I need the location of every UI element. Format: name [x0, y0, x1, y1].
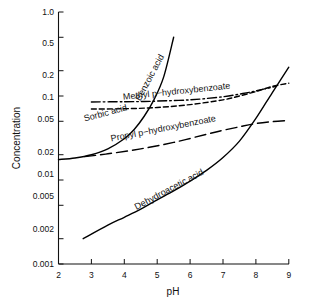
y-tick-label: 0.002 [33, 224, 55, 234]
x-tick-label: 9 [286, 270, 291, 280]
y-tick-label: 0.01 [37, 169, 54, 179]
y-axis-title: Concentration [11, 107, 22, 169]
x-tick-label: 8 [254, 270, 259, 280]
x-tick-label: 4 [122, 270, 127, 280]
y-tick-label: 0.05 [37, 114, 54, 124]
x-tick-label: 5 [155, 270, 160, 280]
concentration-vs-ph-chart: 1.0 0.5 0.2 0.1 0.05 0.02 0.01 0.005 0.0… [0, 0, 309, 302]
y-tick-label: 0.001 [33, 259, 55, 269]
y-tick-label: 0.1 [42, 92, 54, 102]
x-axis-title: pH [167, 286, 180, 297]
x-tick-label: 6 [188, 270, 193, 280]
x-tick-label: 2 [56, 270, 61, 280]
y-tick-label: 0.02 [37, 147, 54, 157]
x-tick-label: 3 [89, 270, 94, 280]
y-tick-label: 0.2 [42, 70, 54, 80]
y-tick-label: 0.5 [42, 38, 54, 48]
y-tick-label: 0.005 [33, 191, 55, 201]
y-tick-label: 1.0 [42, 7, 54, 17]
x-tick-label: 7 [221, 270, 226, 280]
chart-container: 1.0 0.5 0.2 0.1 0.05 0.02 0.01 0.005 0.0… [0, 0, 309, 302]
